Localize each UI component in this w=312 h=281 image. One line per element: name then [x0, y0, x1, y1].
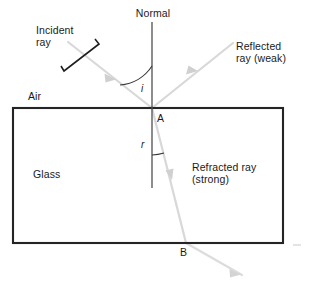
- reflected-ray-label: Reflected ray (weak): [236, 40, 308, 64]
- air-medium-label: Air: [28, 91, 54, 103]
- angle-of-refraction-label: r: [141, 139, 151, 151]
- reflected-ray-line: [152, 43, 233, 108]
- angle-of-incidence-label: i: [141, 83, 151, 95]
- incident-ray-line: [68, 42, 152, 108]
- glass-medium-label: Glass: [33, 169, 73, 181]
- emergent-ray-line: [186, 243, 242, 275]
- refracted-ray-label: Refracted ray (strong): [192, 161, 272, 185]
- point-b-label: B: [180, 247, 194, 259]
- normal-label: Normal: [126, 8, 180, 20]
- angle-r-arc: [152, 153, 164, 155]
- refraction-diagram: Normal Incident ray Reflected ray (weak)…: [0, 0, 312, 281]
- incident-ray-label: Incident ray: [36, 24, 92, 48]
- point-a-label: A: [157, 113, 171, 125]
